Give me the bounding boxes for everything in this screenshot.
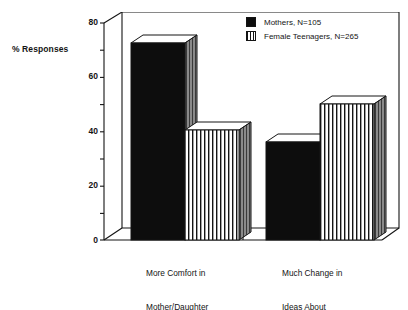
legend-label-female-teenagers: Female Teenagers, N=265 — [264, 32, 358, 41]
legend: Mothers, N=105 Female Teenagers, N=265 — [246, 16, 358, 44]
category-label-2: Much Change in Ideas About Teenage Pregn… — [282, 246, 356, 310]
legend-swatch-solid-icon — [246, 17, 256, 27]
legend-label-mothers: Mothers, N=105 — [264, 18, 321, 27]
legend-item-female-teenagers: Female Teenagers, N=265 — [246, 30, 358, 42]
category-1-line-2: Mother/Daughter — [146, 302, 220, 310]
bar-teens-group2 — [320, 96, 386, 240]
chart-canvas: % Responses 80 60 40 20 0 — [0, 0, 408, 310]
legend-item-mothers: Mothers, N=105 — [246, 16, 358, 28]
category-label-1: More Comfort in Mother/Daughter Talking … — [146, 246, 220, 310]
category-1-line-1: More Comfort in — [146, 268, 220, 279]
bar-teens-group1 — [185, 122, 251, 240]
category-2-line-1: Much Change in — [282, 268, 356, 279]
category-2-line-2: Ideas About — [282, 302, 356, 310]
legend-swatch-striped-icon — [246, 31, 256, 41]
